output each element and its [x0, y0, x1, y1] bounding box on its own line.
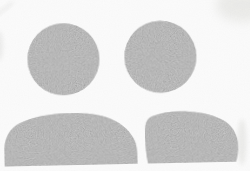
avatar-placeholder-image: [0, 0, 250, 171]
two-users-icon-canvas: [0, 0, 250, 171]
photo-grain-overlay: [0, 0, 250, 171]
